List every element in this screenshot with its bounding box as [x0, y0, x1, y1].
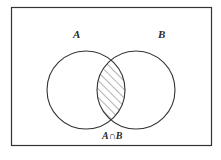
set-b-label: B — [158, 29, 165, 40]
intersection-label: A∩B — [102, 131, 123, 141]
venn-diagram: A B A∩B — [0, 0, 221, 160]
set-a-label: A — [73, 29, 80, 40]
